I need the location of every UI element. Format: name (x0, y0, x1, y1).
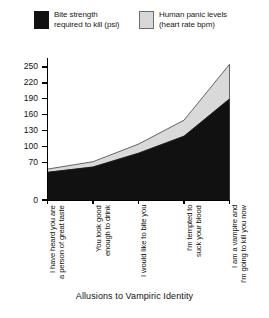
y-tick-label: 160 (10, 110, 38, 119)
x-tick-mark (138, 200, 139, 204)
y-tick-mark (42, 82, 47, 83)
y-tick-label: 250 (10, 62, 38, 71)
x-axis-label: I would like to bite you (140, 205, 149, 283)
y-tick-label: 220 (10, 78, 38, 87)
x-axis-label: I'm tempted to suck your blood (186, 205, 203, 283)
y-tick-label: 0 (10, 196, 38, 205)
x-axis-title: Allusions to Vampiric Identity (0, 291, 269, 301)
x-tick-mark (229, 200, 230, 204)
y-tick-mark (42, 66, 47, 67)
x-tick-mark (47, 200, 48, 204)
y-tick-mark (42, 130, 47, 131)
chart-container: Bite strength required to kill (psi) Hum… (0, 0, 269, 318)
x-axis-label: I am a vampire and I'm going to kill you… (231, 205, 248, 283)
y-tick-mark (42, 146, 47, 147)
y-tick-mark (42, 98, 47, 99)
x-tick-mark (183, 200, 184, 204)
y-tick-label: 190 (10, 94, 38, 103)
x-tick-mark (92, 200, 93, 204)
y-tick-mark (42, 114, 47, 115)
x-axis-label: I have heard you are a person of great t… (49, 205, 66, 283)
y-axis-line (47, 58, 48, 201)
y-tick-mark (42, 162, 47, 163)
y-tick-label: 130 (10, 126, 38, 135)
y-tick-label: 70 (10, 158, 38, 167)
x-axis-label: You look good enough to drink (95, 205, 112, 283)
x-axis-labels: I have heard you are a person of great t… (47, 205, 230, 283)
y-tick-label: 100 (10, 142, 38, 151)
